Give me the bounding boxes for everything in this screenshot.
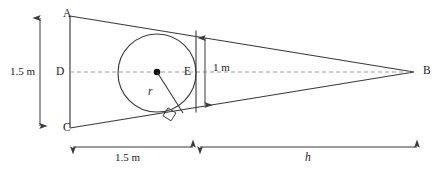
dimension-label-height-left: 1.5 m — [10, 66, 35, 77]
dimension-label-chord: 1 m — [213, 62, 230, 73]
dimension-label-base-left: 1.5 m — [115, 152, 140, 163]
vertex-label-e: E — [184, 66, 191, 78]
vertex-label-a: A — [63, 8, 71, 20]
diagram-canvas: A C B D E r 1.5 m 1 m 1.5 m h — [0, 0, 439, 169]
vertex-label-d: D — [56, 66, 64, 78]
radius-line — [157, 72, 183, 113]
dimension-label-base-right: h — [305, 152, 311, 164]
side-ab — [70, 16, 414, 72]
vertex-label-c: C — [63, 122, 71, 134]
radius-label: r — [148, 86, 152, 98]
side-cb — [70, 72, 414, 128]
geometry-figure — [0, 0, 439, 169]
vertex-label-b: B — [423, 65, 431, 77]
